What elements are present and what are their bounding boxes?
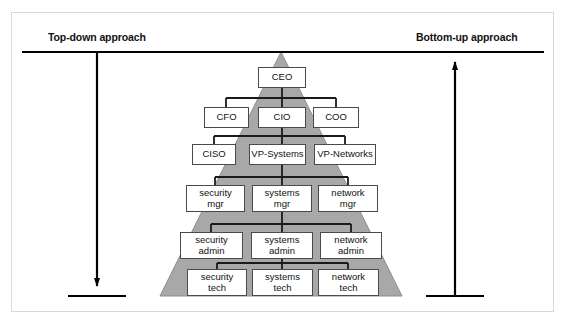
top-down-arrow [68, 52, 126, 296]
org-node-label: CISO [202, 149, 225, 160]
org-node-label: mgr [340, 199, 356, 210]
org-node-cfo[interactable]: CFO [204, 107, 249, 128]
org-node-label: VP-Systems [251, 149, 303, 160]
org-node-systems-admin[interactable]: systemsadmin [251, 232, 313, 259]
org-node-cio[interactable]: CIO [258, 107, 306, 128]
org-node-label: VP-Networks [317, 149, 372, 160]
org-node-label: security [195, 235, 228, 246]
org-node-network-tech[interactable]: networktech [318, 269, 379, 296]
org-node-label: tech [208, 283, 226, 294]
org-node-systems-mgr[interactable]: systemsmgr [252, 185, 312, 212]
org-node-vp-systems[interactable]: VP-Systems [249, 144, 306, 165]
org-node-label: network [334, 235, 367, 246]
organization-pyramid-figure: Top-down approach Bottom-up approach CEO… [0, 0, 566, 324]
org-node-network-admin[interactable]: networkadmin [320, 232, 382, 259]
org-node-label: mgr [274, 199, 290, 210]
org-node-coo[interactable]: COO [313, 107, 359, 128]
org-node-label: network [331, 188, 364, 199]
org-node-label: admin [269, 246, 295, 257]
org-node-label: security [201, 272, 234, 283]
org-node-label: systems [265, 235, 300, 246]
org-node-network-mgr[interactable]: networkmgr [318, 185, 378, 212]
org-node-label: systems [265, 188, 300, 199]
org-node-label: admin [199, 246, 225, 257]
bottom-up-arrow [426, 62, 484, 296]
org-node-label: COO [325, 112, 347, 123]
bottom-up-approach-label: Bottom-up approach [416, 31, 517, 43]
org-node-label: CIO [274, 112, 291, 123]
org-node-label: admin [338, 246, 364, 257]
org-node-ciso[interactable]: CISO [192, 144, 236, 165]
org-node-vp-networks[interactable]: VP-Networks [314, 144, 376, 165]
org-node-security-mgr[interactable]: securitymgr [186, 185, 245, 212]
org-node-label: tech [274, 283, 292, 294]
org-node-label: security [199, 188, 232, 199]
org-node-security-tech[interactable]: securitytech [187, 269, 247, 296]
org-node-label: CFO [216, 112, 236, 123]
org-node-systems-tech[interactable]: systemstech [252, 269, 313, 296]
org-node-label: network [332, 272, 365, 283]
top-down-approach-label: Top-down approach [48, 31, 146, 43]
org-node-label: mgr [207, 199, 223, 210]
org-node-ceo[interactable]: CEO [258, 67, 306, 88]
pyramid-shape [160, 52, 402, 296]
org-node-label: tech [340, 283, 358, 294]
org-node-label: CEO [272, 72, 293, 83]
org-node-security-admin[interactable]: securityadmin [180, 232, 243, 259]
org-node-label: systems [265, 272, 300, 283]
